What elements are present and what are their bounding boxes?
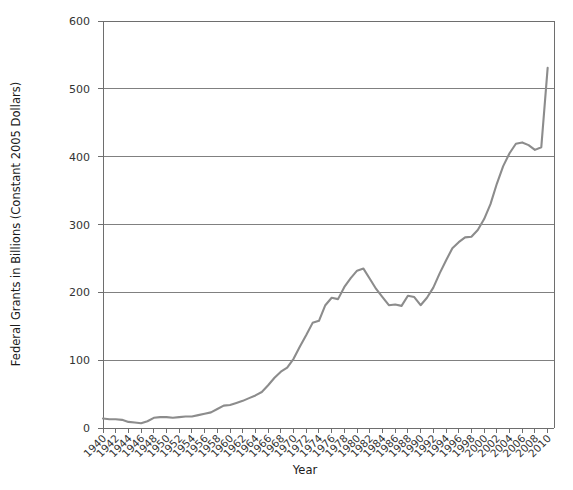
- x-axis-title: Year: [292, 463, 318, 477]
- x-axis-tick-labels: 1940194219441946194819501952195419561958…: [81, 432, 553, 460]
- data-line-series-0: [103, 68, 548, 423]
- gridlines-group: [103, 21, 554, 360]
- y-tick-label-100: 100: [69, 354, 90, 367]
- y-tick-label-400: 400: [69, 151, 90, 164]
- y-tick-label-500: 500: [69, 83, 90, 96]
- line-chart: 0100200300400500600 19401942194419461948…: [0, 0, 573, 490]
- y-tick-label-300: 300: [69, 219, 90, 232]
- chart-container: 0100200300400500600 19401942194419461948…: [0, 0, 573, 490]
- data-series-group: [103, 68, 548, 423]
- y-axis-title: Federal Grants in Billions (Constant 200…: [9, 82, 23, 366]
- y-tick-label-0: 0: [83, 422, 90, 435]
- y-axis-tickmarks: [98, 21, 103, 428]
- y-tick-label-600: 600: [69, 15, 90, 28]
- y-tick-label-200: 200: [69, 286, 90, 299]
- y-axis-tick-labels: 0100200300400500600: [69, 15, 90, 435]
